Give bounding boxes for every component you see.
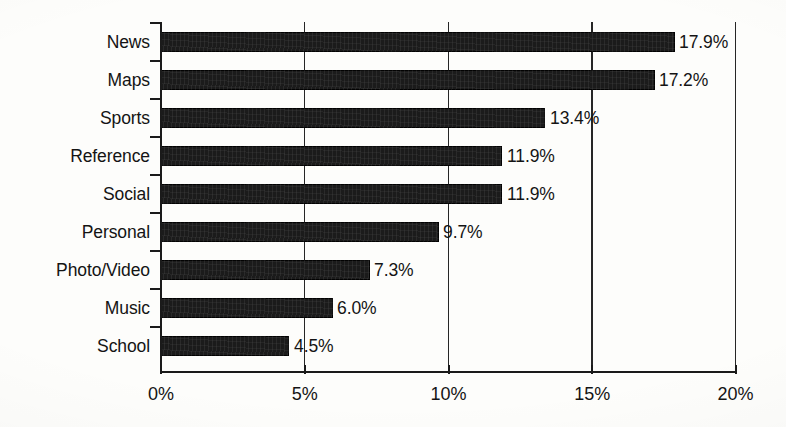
- bar-social: [160, 184, 502, 204]
- bar-news: [160, 32, 675, 52]
- category-label-photo-video: Photo/Video: [56, 260, 150, 280]
- category-label-social: Social: [103, 184, 150, 204]
- x-axis-tick: [160, 365, 162, 374]
- bar-music: [160, 298, 333, 318]
- bar-chart: News Maps Sports Reference Social Person…: [0, 0, 786, 427]
- bar-value-music: 6.0%: [337, 298, 377, 318]
- category-label-personal: Personal: [82, 222, 150, 242]
- bar-value-reference: 11.9%: [507, 146, 555, 166]
- y-axis-line: [160, 22, 162, 374]
- category-label-news: News: [107, 32, 150, 52]
- bar-value-photo-video: 7.3%: [374, 260, 414, 280]
- bar-sports: [160, 108, 545, 128]
- bar-value-school: 4.5%: [294, 336, 334, 356]
- x-axis-label-15: 15%: [547, 383, 637, 405]
- category-label-maps: Maps: [108, 70, 150, 90]
- category-label-sports: Sports: [100, 108, 150, 128]
- x-axis-label-0: 0%: [116, 383, 206, 405]
- bar-value-sports: 13.4%: [550, 108, 599, 128]
- x-axis-tick: [735, 365, 737, 374]
- bar-reference: [160, 146, 502, 166]
- category-label-music: Music: [105, 298, 150, 318]
- category-label-school: School: [97, 336, 150, 356]
- gridline-20: [735, 22, 737, 372]
- x-axis-tick: [591, 365, 593, 374]
- bar-personal: [160, 222, 439, 242]
- x-axis-tick: [304, 365, 306, 374]
- bar-value-news: 17.9%: [679, 32, 728, 52]
- x-axis-tick: [448, 365, 450, 374]
- bar-maps: [160, 70, 655, 90]
- x-axis-label-20: 20%: [691, 383, 781, 405]
- bar-photo-video: [160, 260, 370, 280]
- scan-texture-overlay: [0, 0, 786, 427]
- x-axis-label-5: 5%: [260, 383, 350, 405]
- bar-value-social: 11.9%: [507, 184, 555, 204]
- bar-value-personal: 9.7%: [443, 222, 483, 242]
- bar-school: [160, 336, 289, 356]
- x-axis-label-10: 10%: [404, 383, 494, 405]
- category-label-reference: Reference: [70, 146, 150, 166]
- bar-value-maps: 17.2%: [659, 70, 708, 90]
